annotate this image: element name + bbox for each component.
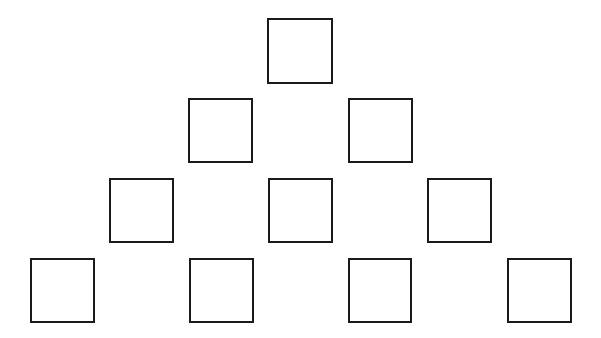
box-row3-3 (427, 178, 492, 243)
box-row2-1 (188, 98, 253, 163)
box-row2-2 (348, 98, 413, 163)
box-row4-4 (507, 258, 572, 323)
box-row4-1 (30, 258, 95, 323)
box-row3-2 (268, 178, 333, 243)
box-row3-1 (109, 178, 174, 243)
box-row1-1 (267, 18, 333, 84)
box-row4-2 (189, 258, 254, 323)
box-row4-3 (348, 258, 412, 323)
pyramid-diagram (0, 0, 601, 338)
